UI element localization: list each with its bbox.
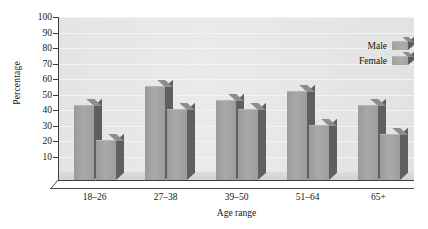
legend-swatch: [392, 42, 414, 50]
bar-female-3: [238, 110, 258, 180]
legend-item-male: Male: [318, 38, 414, 53]
y-axis-tick-label: 30: [22, 121, 52, 131]
bar-male-4: [287, 92, 307, 180]
bar-front-face: [145, 86, 165, 180]
x-axis-tick-label: 18–26: [65, 192, 125, 202]
y-axis-tick-label: 10: [22, 152, 52, 162]
bar-female-4: [309, 126, 329, 180]
y-axis-tick-label: 60: [22, 74, 52, 84]
x-axis-title: Age range: [59, 208, 414, 218]
bar-front-face: [380, 134, 400, 180]
legend-label: Female: [359, 56, 387, 66]
x-axis-tick-label: 51–64: [278, 192, 338, 202]
bar-male-3: [216, 101, 236, 180]
legend-item-female: Female: [318, 53, 414, 68]
bar-front-face: [96, 140, 116, 180]
bar-male-5: [358, 106, 378, 180]
bar-front-face: [287, 91, 307, 180]
y-axis-title: Percentage: [12, 28, 22, 138]
y-axis-tick-label: 50: [22, 90, 52, 100]
y-axis-tick-label: 90: [22, 28, 52, 38]
legend-label: Male: [367, 41, 387, 51]
bar-chart: Percentage 100908070605040302010 18–2627…: [0, 0, 428, 229]
bar-female-1: [96, 141, 116, 180]
bar-front-face: [358, 105, 378, 180]
x-axis-tick-label: 39–50: [207, 192, 267, 202]
bar-side-face: [400, 128, 408, 180]
bar-female-2: [167, 110, 187, 180]
legend-swatch-front-face: [392, 41, 408, 50]
bar-front-face: [216, 100, 236, 180]
bar-male-1: [74, 106, 94, 180]
chart-legend: MaleFemale: [318, 38, 414, 68]
y-axis-tick-label: 100: [22, 12, 52, 22]
bar-female-5: [380, 135, 400, 180]
x-axis-tick-label: 27–38: [136, 192, 196, 202]
legend-swatch: [392, 57, 414, 65]
y-axis-tick-label: 40: [22, 105, 52, 115]
bar-front-face: [167, 109, 187, 180]
x-axis-tick-label: 65+: [349, 192, 409, 202]
bar-front-face: [74, 105, 94, 180]
y-axis-tick-label: 80: [22, 43, 52, 53]
bar-male-2: [145, 87, 165, 180]
bar-side-face: [329, 119, 337, 180]
y-axis-tick-labels: 100908070605040302010: [22, 12, 52, 180]
bar-front-face: [309, 125, 329, 180]
bar-front-face: [238, 109, 258, 180]
bar-side-face: [187, 103, 195, 180]
legend-swatch-front-face: [392, 56, 408, 65]
y-axis-tick-label: 70: [22, 59, 52, 69]
floor-front-edge: [50, 188, 414, 189]
bar-side-face: [258, 103, 266, 180]
y-axis-tick-label: 20: [22, 136, 52, 146]
x-axis-tick-labels: 18–2627–3839–5051–6465+: [59, 192, 414, 206]
